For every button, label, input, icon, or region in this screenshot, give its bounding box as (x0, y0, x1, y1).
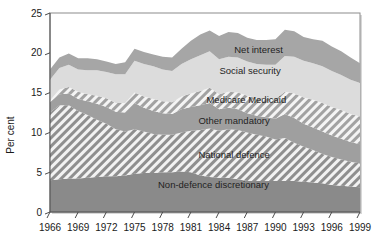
y-axis-tick-label: 5 (36, 167, 42, 178)
x-axis-tick-label: 1969 (67, 222, 90, 233)
series-label-net-interest: Net interest (234, 44, 283, 55)
series-label-social-security: Social security (219, 65, 280, 76)
series-label-medicare-medicaid: Medicare Medicaid (206, 94, 286, 105)
series-label-other-mandatory: Other mandatory (198, 115, 270, 126)
y-axis-title: Per cent (5, 116, 16, 153)
x-axis-tick-label: 1978 (152, 222, 175, 233)
y-axis-tick-label: 10 (31, 127, 43, 138)
stacked-area-chart: 0510152025 19661969197219751978198119841… (0, 0, 375, 241)
y-axis-tick-label: 15 (31, 87, 43, 98)
x-axis-tick-label: 1966 (39, 222, 62, 233)
x-axis-tick-label: 1987 (236, 222, 259, 233)
series-label-non-defence-discretionary: Non-defence discretionary (158, 179, 269, 190)
x-axis-tick-label: 1981 (180, 222, 203, 233)
x-axis-tick-label: 1984 (208, 222, 231, 233)
x-axis-tick-label: 1975 (123, 222, 146, 233)
x-axis-tick-label: 1972 (95, 222, 118, 233)
x-axis-tick-label: 1999 (349, 222, 372, 233)
y-axis-tick-label: 20 (31, 47, 43, 58)
y-axis-tick-label: 0 (36, 207, 42, 218)
y-axis-tick-label: 25 (31, 8, 43, 19)
x-axis-tick-label: 1996 (321, 222, 344, 233)
chart-canvas: 0510152025 19661969197219751978198119841… (0, 0, 375, 241)
x-axis-tick-label: 1993 (293, 222, 316, 233)
series-label-national-defence: National defence (198, 149, 269, 160)
x-axis-tick-label: 1990 (264, 222, 287, 233)
